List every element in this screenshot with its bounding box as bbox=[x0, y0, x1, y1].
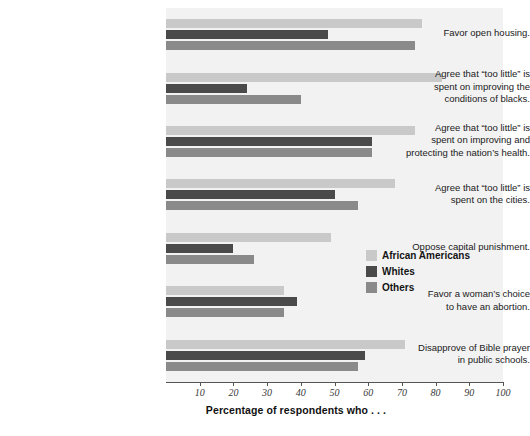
x-tick-label: 40 bbox=[296, 387, 306, 398]
legend-item: Others bbox=[366, 280, 470, 295]
x-tick-label: 60 bbox=[363, 387, 373, 398]
x-tick-label: 100 bbox=[496, 387, 511, 398]
legend-label: African Americans bbox=[382, 250, 470, 261]
x-tick-label: 90 bbox=[464, 387, 474, 398]
category-label-line: in public schools. bbox=[372, 354, 530, 367]
x-axis-title: Percentage of respondents who . . . bbox=[0, 404, 530, 416]
category-label-line: spent on the cities. bbox=[372, 194, 530, 207]
bar bbox=[166, 297, 297, 306]
category-label-line: Agree that “too little” is bbox=[372, 122, 530, 135]
x-tick bbox=[301, 382, 302, 386]
x-tick bbox=[233, 382, 234, 386]
category-label-line: spent on improving and bbox=[372, 134, 530, 147]
bar bbox=[166, 362, 358, 371]
category-label-line: Agree that “too little” is bbox=[372, 68, 530, 81]
bar bbox=[166, 201, 358, 210]
bar bbox=[166, 233, 331, 242]
bar-chart-figure: Favor open housing.Agree that “too littl… bbox=[0, 0, 530, 436]
x-tick bbox=[402, 382, 403, 386]
category-label: Favor open housing. bbox=[372, 27, 530, 40]
bar bbox=[166, 137, 372, 146]
x-tick-label: 20 bbox=[228, 387, 238, 398]
category-label: Disapprove of Bible prayerin public scho… bbox=[372, 342, 530, 367]
legend-label: Whites bbox=[382, 266, 415, 277]
bar bbox=[166, 148, 372, 157]
legend-swatch bbox=[366, 282, 377, 293]
legend-label: Others bbox=[382, 282, 414, 293]
bar bbox=[166, 95, 301, 104]
x-tick-label: 30 bbox=[262, 387, 272, 398]
bar bbox=[166, 244, 233, 253]
legend-swatch bbox=[366, 250, 377, 261]
x-tick bbox=[503, 382, 504, 386]
bar bbox=[166, 255, 254, 264]
category-label-line: protecting the nation’s health. bbox=[372, 147, 530, 160]
category-label-line: Agree that “too little” is bbox=[372, 182, 530, 195]
category-label-line: Favor open housing. bbox=[372, 27, 530, 40]
chart-legend: African AmericansWhitesOthers bbox=[366, 248, 470, 296]
category-label-line: Disapprove of Bible prayer bbox=[372, 342, 530, 355]
legend-item: African Americans bbox=[366, 248, 470, 263]
bar bbox=[166, 190, 335, 199]
bar bbox=[166, 30, 328, 39]
x-tick-label: 50 bbox=[330, 387, 340, 398]
bar bbox=[166, 340, 405, 349]
x-tick bbox=[200, 382, 201, 386]
x-tick-label: 80 bbox=[431, 387, 441, 398]
bar bbox=[166, 41, 415, 50]
legend-swatch bbox=[366, 266, 377, 277]
category-label-line: to have an abortion. bbox=[372, 301, 530, 314]
x-tick bbox=[368, 382, 369, 386]
x-axis-title-text: Percentage of respondents who . . . bbox=[206, 404, 386, 416]
category-label: Agree that “too little” isspent on impro… bbox=[372, 122, 530, 160]
x-tick bbox=[335, 382, 336, 386]
bar bbox=[166, 351, 365, 360]
x-tick bbox=[267, 382, 268, 386]
x-tick-label: 10 bbox=[195, 387, 205, 398]
x-tick bbox=[436, 382, 437, 386]
x-tick-label: 70 bbox=[397, 387, 407, 398]
legend-item: Whites bbox=[366, 264, 470, 279]
bar bbox=[166, 179, 395, 188]
bar bbox=[166, 84, 247, 93]
category-label-line: spent on improving the bbox=[372, 81, 530, 94]
x-tick bbox=[469, 382, 470, 386]
category-label: Agree that “too little” isspent on impro… bbox=[372, 68, 530, 106]
bar bbox=[166, 286, 284, 295]
category-label: Agree that “too little” isspent on the c… bbox=[372, 182, 530, 207]
bar bbox=[166, 308, 284, 317]
category-label-line: conditions of blacks. bbox=[372, 93, 530, 106]
